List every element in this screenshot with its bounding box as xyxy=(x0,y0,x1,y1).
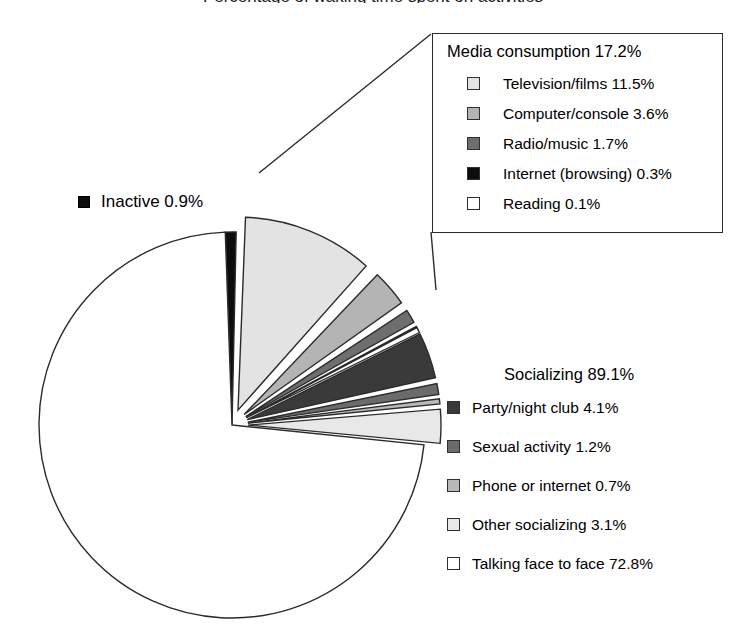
legend-item-label: Radio/music 1.7% xyxy=(503,136,628,152)
legend-item-television: Television/films 11.5% xyxy=(467,74,654,93)
pie-chart-figure: Percentage of waking time spent on activ… xyxy=(0,0,746,636)
leader-line-top xyxy=(259,34,431,173)
legend-item-label: Party/night club 4.1% xyxy=(472,400,618,416)
inactive-swatch-icon xyxy=(78,196,90,208)
pie-slices-group xyxy=(39,217,441,618)
television-swatch-icon xyxy=(467,77,480,90)
legend-item-party: Party/night club 4.1% xyxy=(447,398,618,417)
talking-swatch-icon xyxy=(447,557,460,570)
legend-item-internet: Internet (browsing) 0.3% xyxy=(467,164,672,183)
reading-swatch-icon xyxy=(467,197,480,210)
legend-item-label: Internet (browsing) 0.3% xyxy=(503,166,672,182)
legend-item-reading: Reading 0.1% xyxy=(467,194,600,213)
legend-item-label: Other socializing 3.1% xyxy=(472,517,626,533)
legend-item-sexual-activity: Sexual activity 1.2% xyxy=(447,437,611,456)
inactive-label: Inactive 0.9% xyxy=(101,194,203,210)
legend-item-talking: Talking face to face 72.8% xyxy=(447,554,653,573)
radio-swatch-icon xyxy=(467,137,480,150)
legend-item-label: Sexual activity 1.2% xyxy=(472,439,611,455)
legend-item-label: Talking face to face 72.8% xyxy=(472,556,653,572)
media-consumption-title: Media consumption 17.2% xyxy=(447,42,641,61)
other-socializing-swatch-icon xyxy=(447,518,460,531)
socializing-legend: Socializing 89.1% Party/night club 4.1% … xyxy=(447,365,737,585)
media-consumption-legend-box: Media consumption 17.2% Television/films… xyxy=(432,33,723,233)
socializing-title: Socializing 89.1% xyxy=(504,365,634,384)
legend-item-label: Phone or internet 0.7% xyxy=(472,478,631,494)
computer-swatch-icon xyxy=(467,107,480,120)
legend-item-label: Reading 0.1% xyxy=(503,196,600,212)
inactive-callout: Inactive 0.9% xyxy=(78,192,203,212)
sexual-activity-swatch-icon xyxy=(447,440,460,453)
legend-item-computer: Computer/console 3.6% xyxy=(467,104,668,123)
leader-line-bottom xyxy=(431,232,436,290)
phone-internet-swatch-icon xyxy=(447,479,460,492)
legend-item-phone-internet: Phone or internet 0.7% xyxy=(447,476,631,495)
legend-item-other-socializing: Other socializing 3.1% xyxy=(447,515,626,534)
party-swatch-icon xyxy=(447,401,460,414)
legend-item-label: Television/films 11.5% xyxy=(503,76,654,92)
legend-item-radio: Radio/music 1.7% xyxy=(467,134,628,153)
internet-swatch-icon xyxy=(467,167,480,180)
legend-item-label: Computer/console 3.6% xyxy=(503,106,668,122)
